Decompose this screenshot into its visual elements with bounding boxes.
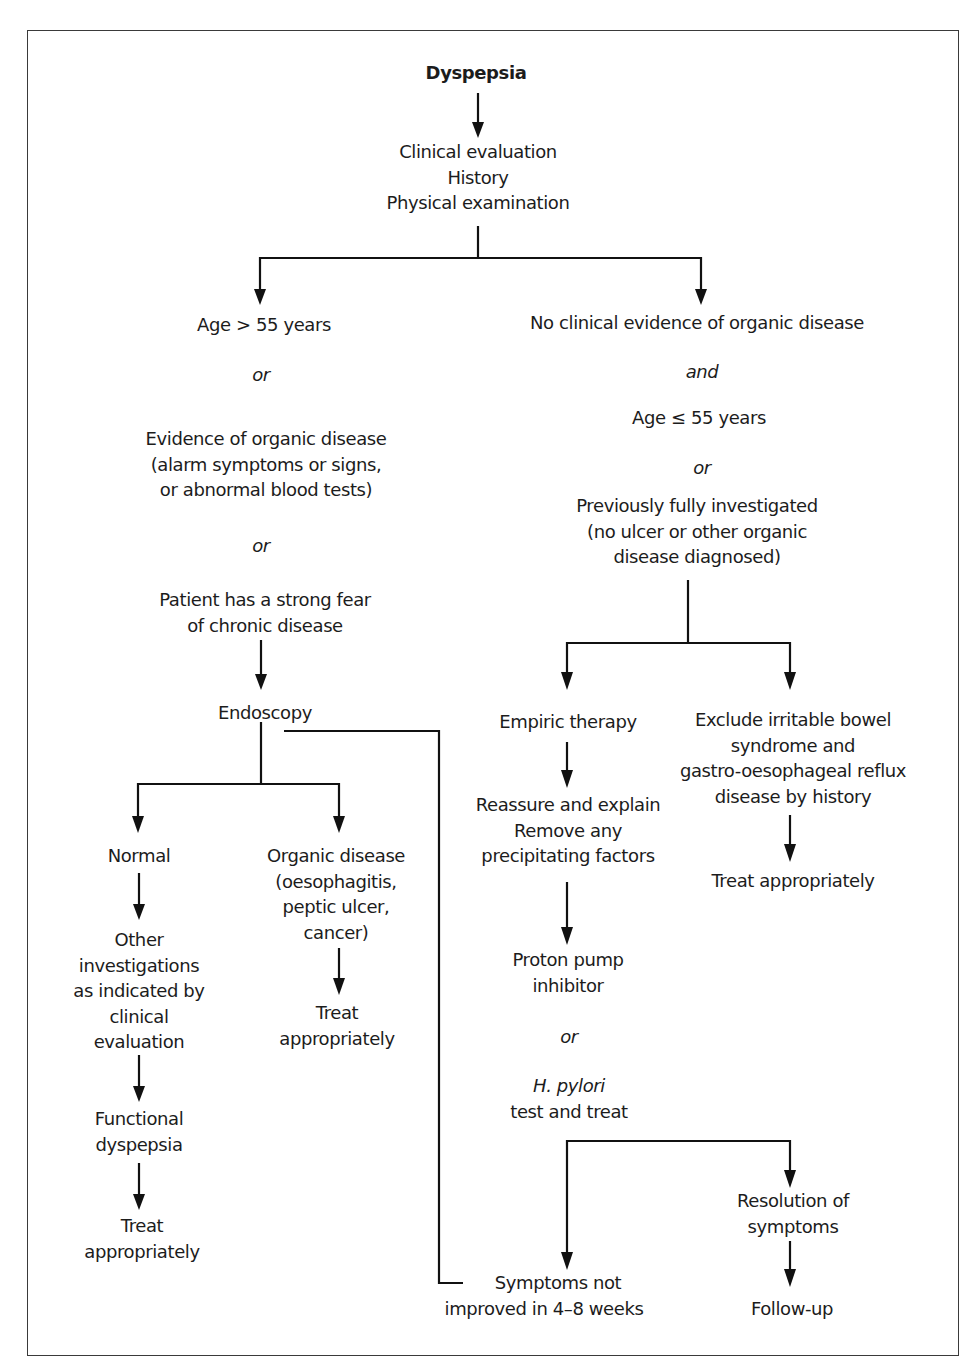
split-endoscopy (132, 722, 345, 833)
node-symptoms-not-improved: Symptoms not improved in 4–8 weeks (445, 1270, 644, 1321)
node-normal: Normal (108, 843, 171, 869)
arrow-normal-to-other (133, 873, 145, 920)
node-age-under-55: Age ≤ 55 years (632, 405, 766, 431)
node-dyspepsia: Dyspepsia (426, 60, 527, 86)
node-treat-functional: Treat appropriately (84, 1213, 199, 1264)
node-treat-right: Treat appropriately (711, 868, 874, 894)
split-evaluation (254, 226, 707, 305)
node-resolution-of-symptoms: Resolution of symptoms (737, 1188, 849, 1239)
arrow-other-to-functional (133, 1055, 145, 1102)
node-reassure-explain: Reassure and explain Remove any precipit… (476, 792, 661, 869)
arrow-empiric-to-reassure (561, 742, 573, 788)
node-functional-dyspepsia: Functional dyspepsia (95, 1106, 184, 1157)
split-right-branch (561, 580, 796, 690)
connector-or-ppi: or (560, 1024, 578, 1050)
node-organic-disease: Organic disease (oesophagitis, peptic ul… (267, 843, 405, 945)
node-endoscopy: Endoscopy (218, 700, 312, 726)
arrow-reassure-to-ppi (561, 882, 573, 945)
arrow-resolution-to-followup (784, 1241, 796, 1287)
node-exclude-ibs-gerd: Exclude irritable bowel syndrome and gas… (680, 707, 906, 809)
node-clinical-evaluation: Clinical evaluation History Physical exa… (387, 139, 570, 216)
node-treat-organic: Treat appropriately (279, 1000, 394, 1051)
node-age-over-55: Age > 55 years (197, 312, 331, 338)
node-organic-evidence: Evidence of organic disease (alarm sympt… (146, 426, 387, 503)
node-empiric-therapy: Empiric therapy (499, 709, 636, 735)
arrow-organic-to-treat (333, 948, 345, 995)
arrow-to-endoscopy (255, 640, 267, 690)
arrow-ibs-to-treat (784, 815, 796, 862)
node-previously-investigated: Previously fully investigated (no ulcer … (576, 493, 818, 570)
node-other-investigations: Other investigations as indicated by cli… (73, 927, 204, 1055)
connector-or-left-2: or (252, 533, 270, 559)
node-follow-up: Follow-up (751, 1296, 833, 1322)
node-no-clinical-evidence: No clinical evidence of organic disease (530, 310, 864, 336)
arrow-functional-to-treat (133, 1163, 145, 1210)
connector-and: and (686, 359, 719, 385)
arrow-root-to-evaluation (472, 93, 484, 138)
node-fear-of-disease: Patient has a strong fear of chronic dis… (159, 587, 371, 638)
connector-or-right: or (693, 455, 711, 481)
node-proton-pump-inhibitor: Proton pump inhibitor (512, 947, 623, 998)
node-h-pylori: H. pylori test and treat (510, 1073, 628, 1124)
connector-or-left-1: or (252, 362, 270, 388)
